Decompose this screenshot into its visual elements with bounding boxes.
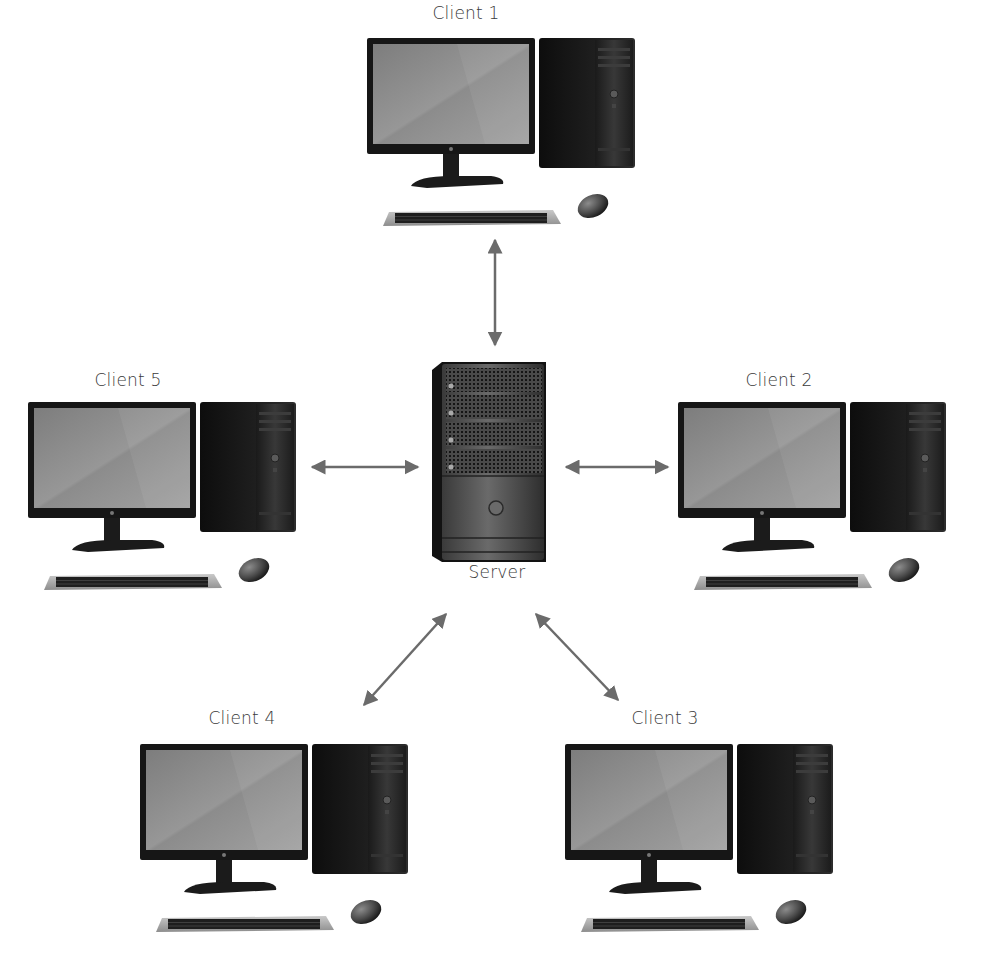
arrow-server-client3: [536, 614, 618, 700]
client-4-workstation: [140, 742, 420, 942]
client-5-workstation: [28, 400, 308, 600]
arrow-server-client4: [364, 614, 446, 705]
server-tower-icon: [424, 362, 554, 568]
server-tower: [424, 362, 554, 568]
client-5-label: Client 5: [94, 370, 161, 390]
client-1-label: Client 1: [432, 3, 499, 23]
client-1-workstation: [367, 36, 647, 236]
client-3-workstation: [565, 742, 845, 942]
desktop-computer-icon: [28, 400, 308, 600]
desktop-computer-icon: [367, 36, 647, 236]
client-2-label: Client 2: [745, 370, 812, 390]
desktop-computer-icon: [678, 400, 958, 600]
desktop-computer-icon: [565, 742, 845, 942]
client-3-label: Client 3: [631, 708, 698, 728]
client-4-label: Client 4: [208, 708, 275, 728]
desktop-computer-icon: [140, 742, 420, 942]
server-label: Server: [469, 562, 526, 582]
client-2-workstation: [678, 400, 958, 600]
